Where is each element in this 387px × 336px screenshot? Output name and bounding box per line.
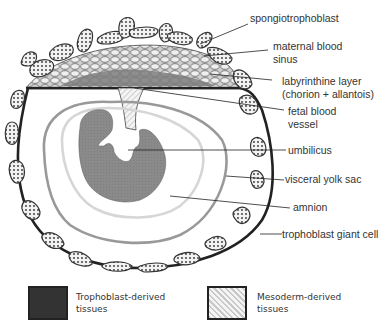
label-labyrinthine-layer: labyrinthine layer (chorion + allantois) bbox=[282, 75, 374, 101]
legend-swatch-mesoderm bbox=[207, 286, 247, 320]
label-fetal-blood-vessel: fetal blood vessel bbox=[288, 105, 336, 131]
label-spongiotrophoblast: spongiotrophoblast bbox=[250, 12, 339, 25]
label-amnion: amnion bbox=[293, 201, 327, 214]
legend-label-trophoblast: Trophoblast-derived tissues bbox=[76, 291, 165, 315]
legend-label-mesoderm: Mesoderm-derived tissues bbox=[257, 291, 341, 315]
legend-swatch-trophoblast bbox=[28, 286, 68, 320]
label-maternal-blood-sinus: maternal blood sinus bbox=[273, 40, 342, 66]
label-visceral-yolk-sac: visceral yolk sac bbox=[285, 173, 361, 186]
label-umbilicus: umbilicus bbox=[288, 144, 332, 157]
label-trophoblast-giant-cell: trophoblast giant cell bbox=[282, 228, 378, 241]
